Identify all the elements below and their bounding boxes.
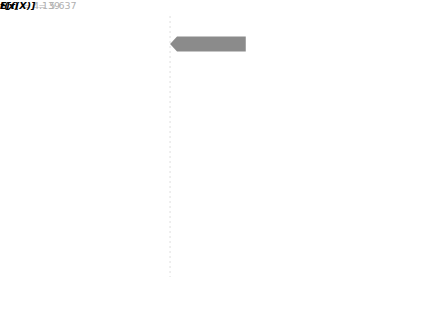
waterfall-canvas xyxy=(0,0,444,312)
base-value-annotation: E[f(X)] = 5.637 xyxy=(0,0,77,11)
shap-waterfall-chart: f(x) = 4.139 E[f(X)] = 5.637 xyxy=(0,0,444,312)
efx-prefix: E[f(X)] xyxy=(0,0,35,11)
efx-eq: = xyxy=(35,0,49,11)
waterfall-bar[interactable] xyxy=(170,37,246,52)
efx-value: 5.637 xyxy=(49,0,76,11)
